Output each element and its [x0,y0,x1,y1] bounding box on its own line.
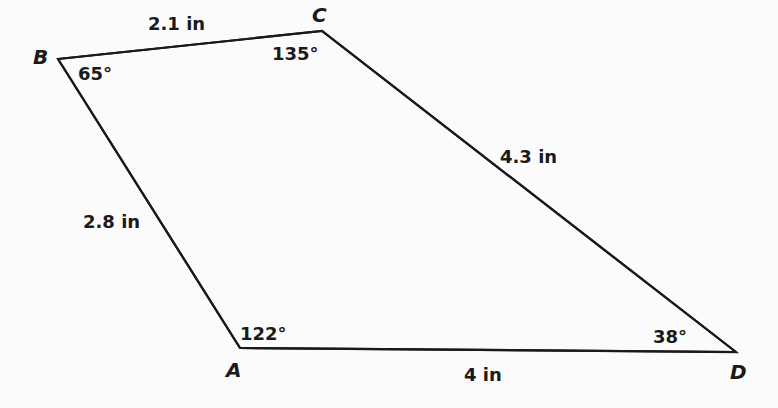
side-length-bc: 2.1 in [148,13,205,34]
side-ab [58,59,240,348]
angle-label-d: 38° [653,326,687,347]
diagram-canvas: B C A D 65° 135° 122° 38° 2.1 in 4.3 in … [0,0,778,408]
vertex-label-b: B [33,45,48,69]
angle-label-c: 135° [272,43,319,64]
angle-label-b: 65° [78,63,112,84]
side-ad [240,348,736,352]
side-length-ad: 4 in [464,364,502,385]
side-cd [322,31,736,352]
vertex-label-d: D [730,360,747,384]
vertex-label-a: A [224,358,241,382]
angle-label-a: 122° [240,323,287,344]
vertex-label-c: C [312,3,327,27]
quadrilateral-diagram: B C A D 65° 135° 122° 38° 2.1 in 4.3 in … [0,0,778,408]
side-length-cd: 4.3 in [500,146,557,167]
quadrilateral-abcd [58,31,736,352]
side-length-ab: 2.8 in [83,211,140,232]
